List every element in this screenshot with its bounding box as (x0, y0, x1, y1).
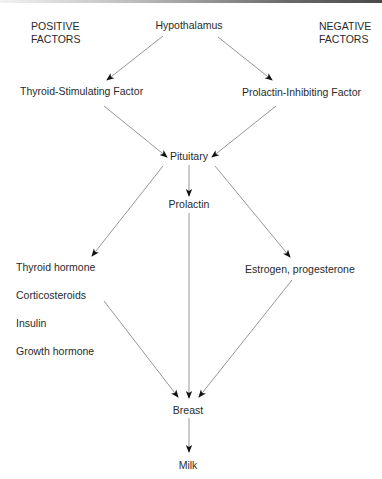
node-milk: Milk (179, 459, 198, 471)
arrow-hypothalamus-tsf (107, 36, 163, 80)
node-estrogen: Estrogen, progesterone (245, 263, 355, 275)
node-hypothalamus: Hypothalamus (155, 19, 222, 31)
hormone-growth: Growth hormone (16, 345, 94, 357)
node-pif: Prolactin-Inhibiting Factor (242, 86, 361, 98)
arrow-pituitary-estrogen (215, 166, 290, 257)
arrow-pif-pituitary (212, 106, 276, 157)
arrow-pituitary-thyroid (92, 166, 163, 256)
node-breast: Breast (173, 404, 203, 416)
positive-header-line2: FACTORS (31, 33, 80, 46)
arrow-positive-breast (104, 301, 178, 397)
node-tsf: Thyroid-Stimulating Factor (20, 85, 143, 97)
node-pituitary: Pituitary (170, 150, 208, 162)
node-prolactin: Prolactin (169, 198, 210, 210)
arrow-hypothalamus-pif (218, 37, 272, 80)
negative-header-line2: FACTORS (319, 33, 371, 46)
positive-factors-header: POSITIVE FACTORS (31, 20, 80, 46)
hormone-thyroid: Thyroid hormone (16, 261, 95, 273)
hormone-corticosteroids: Corticosteroids (16, 289, 86, 301)
arrow-estrogen-breast (199, 280, 292, 397)
positive-header-line1: POSITIVE (31, 20, 80, 33)
negative-header-line1: NEGATIVE (319, 20, 371, 33)
arrow-tsf-pituitary (104, 106, 167, 157)
negative-factors-header: NEGATIVE FACTORS (319, 20, 371, 46)
hormone-insulin: Insulin (16, 317, 46, 329)
